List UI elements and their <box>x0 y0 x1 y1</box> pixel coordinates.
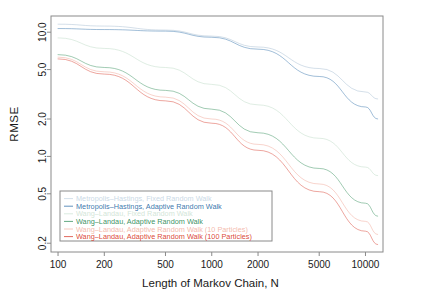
y-tick-label: 0.2 <box>38 236 49 250</box>
x-tick-label: 1000 <box>201 259 224 270</box>
x-tick-label: 200 <box>96 259 113 270</box>
chart-legend: Metropolis–Hastings, Fixed Random WalkMe… <box>60 191 272 241</box>
x-axis: 10020050010002000500010000 <box>50 252 380 270</box>
x-tick-label: 100 <box>50 259 67 270</box>
y-tick-label: 0.5 <box>38 186 49 200</box>
y-axis: 0.20.51.02.05.010.0 <box>38 22 52 250</box>
y-tick-label: 1.0 <box>38 149 49 163</box>
x-axis-title: Length of Markov Chain, N <box>0 277 421 289</box>
y-tick-label: 10.0 <box>38 22 49 42</box>
series-line-2 <box>58 38 378 176</box>
y-axis-title: RMSE <box>8 94 20 154</box>
chart-figure: 10020050010002000500010000 0.20.51.02.05… <box>0 0 421 299</box>
legend-label-5: Wang–Landau, Adaptive Random Walk (100 P… <box>76 232 252 241</box>
y-tick-label: 2.0 <box>38 112 49 126</box>
rmse-convergence-chart: 10020050010002000500010000 0.20.51.02.05… <box>0 0 421 299</box>
x-tick-label: 10000 <box>352 259 380 270</box>
x-tick-label: 500 <box>157 259 174 270</box>
x-tick-label: 5000 <box>308 259 331 270</box>
y-tick-label: 5.0 <box>38 62 49 76</box>
series-line-0 <box>58 24 378 99</box>
x-tick-label: 2000 <box>247 259 270 270</box>
